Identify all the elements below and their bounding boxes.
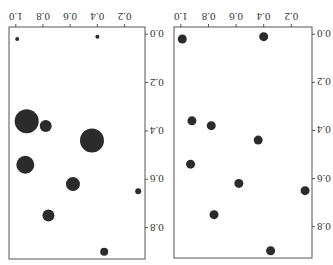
data-point	[178, 35, 187, 44]
data-point	[254, 136, 263, 145]
data-point	[80, 129, 104, 153]
data-point	[187, 116, 196, 125]
data-point	[186, 160, 195, 169]
data-point	[210, 210, 219, 219]
scatter-figure: 0.20.40.60.81.00.00.20.40.60.80.20.40.60…	[0, 0, 333, 265]
data-point	[95, 35, 99, 39]
data-point	[16, 156, 34, 174]
x-tick-label: 0.4	[256, 11, 270, 23]
x-tick-label: 1.0	[8, 11, 22, 23]
data-point	[259, 32, 268, 41]
data-point	[234, 179, 243, 188]
y-tick-label: 0.0	[150, 28, 164, 40]
y-tick-label: 0.6	[317, 173, 331, 185]
axes-frame	[174, 27, 312, 258]
x-tick-label: 0.6	[229, 11, 243, 23]
x-tick-label: 0.8	[36, 11, 50, 23]
data-point	[15, 37, 19, 41]
x-tick-label: 0.6	[63, 11, 77, 23]
y-tick-label: 0.4	[150, 125, 164, 137]
y-tick-label: 0.2	[150, 77, 164, 89]
x-tick-label: 0.4	[90, 11, 104, 23]
y-tick-label: 0.4	[317, 124, 331, 136]
y-tick-label: 0.8	[150, 222, 164, 234]
figure: 0.20.40.60.81.00.00.20.40.60.80.20.40.60…	[0, 0, 333, 265]
x-tick-label: 0.2	[118, 11, 132, 23]
scatter-panel-1: 0.20.40.60.81.00.00.20.40.60.8	[8, 11, 163, 259]
x-tick-label: 0.8	[201, 11, 215, 23]
y-tick-label: 0.8	[317, 221, 331, 233]
data-point	[207, 121, 216, 130]
axes-frame	[9, 27, 145, 259]
data-point	[135, 188, 141, 194]
data-point	[15, 109, 39, 133]
data-point	[66, 177, 80, 191]
data-point	[100, 248, 108, 256]
data-point	[266, 246, 275, 255]
scatter-panel-2: 0.20.40.60.81.00.00.20.40.60.8	[174, 11, 331, 258]
data-point	[40, 120, 52, 132]
y-tick-label: 0.6	[150, 173, 164, 185]
data-point	[301, 186, 310, 195]
y-tick-label: 0.2	[317, 76, 331, 88]
y-tick-label: 0.0	[317, 28, 331, 40]
x-tick-label: 1.0	[174, 11, 188, 23]
x-tick-label: 0.2	[284, 11, 298, 23]
data-point	[42, 210, 54, 222]
